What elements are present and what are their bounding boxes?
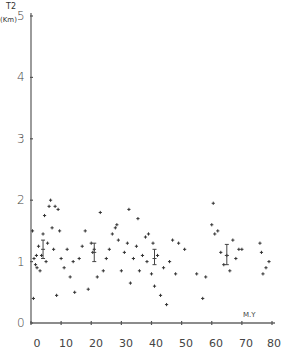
data-point (87, 288, 90, 291)
data-point (156, 254, 159, 257)
data-point (84, 229, 87, 232)
data-point (35, 254, 38, 257)
data-point (52, 248, 55, 251)
data-point (132, 257, 135, 260)
data-point (34, 263, 37, 266)
data-point (177, 242, 180, 245)
data-point (63, 266, 66, 269)
data-point (240, 248, 243, 251)
data-point (114, 226, 117, 229)
data-point (260, 251, 263, 254)
data-point (96, 275, 99, 278)
y-tick-3: 3 (17, 132, 25, 146)
x-tick-0: 0 (34, 337, 41, 350)
x-tick-40: 40 (149, 337, 163, 350)
y-tick-5: 5 (17, 9, 25, 23)
data-point (183, 248, 186, 251)
y-tick-4: 4 (17, 70, 25, 84)
data-point (171, 239, 174, 242)
data-point (44, 260, 47, 263)
data-point (174, 272, 177, 275)
data-point (111, 232, 114, 235)
data-point (60, 257, 63, 260)
scatter-plot (0, 0, 285, 355)
data-point (35, 266, 38, 269)
data-point (47, 205, 50, 208)
data-point (54, 205, 57, 208)
data-point (41, 232, 44, 235)
data-point (267, 260, 270, 263)
data-point (69, 275, 72, 278)
data-point (147, 232, 150, 235)
data-point (49, 199, 52, 202)
data-point (258, 242, 261, 245)
data-point (213, 232, 216, 235)
data-point (66, 248, 69, 251)
data-point (159, 294, 162, 297)
data-point (210, 223, 213, 226)
data-point (261, 272, 264, 275)
x-axis-unit: M.Y (243, 311, 256, 319)
data-point (129, 281, 132, 284)
data-point (212, 202, 215, 205)
data-point (126, 242, 129, 245)
y-axis-title: T2 (6, 2, 16, 11)
data-point (50, 226, 53, 229)
data-point (151, 242, 154, 245)
data-point (115, 223, 118, 226)
data-point (78, 257, 81, 260)
data-point (135, 245, 138, 248)
data-point (123, 251, 126, 254)
data-point (55, 294, 58, 297)
x-tick-10: 10 (59, 337, 73, 350)
y-tick-1: 1 (17, 255, 25, 269)
data-point (58, 229, 61, 232)
y-tick-2: 2 (17, 193, 25, 207)
data-point (99, 211, 102, 214)
data-point (127, 208, 130, 211)
data-point (105, 257, 108, 260)
data-point (117, 239, 120, 242)
data-point (150, 272, 153, 275)
data-point (162, 266, 165, 269)
data-point (153, 285, 156, 288)
data-point (228, 269, 231, 272)
data-point (138, 269, 141, 272)
data-point (144, 235, 147, 238)
data-point (120, 269, 123, 272)
x-tick-50: 50 (179, 337, 193, 350)
data-point (73, 291, 76, 294)
x-tick-60: 60 (209, 337, 223, 350)
data-point (81, 245, 84, 248)
data-point (32, 257, 35, 260)
data-point (102, 269, 105, 272)
data-point (38, 269, 41, 272)
data-point (37, 245, 40, 248)
data-point (204, 275, 207, 278)
data-point (145, 260, 148, 263)
data-point (141, 254, 144, 257)
data-point (46, 242, 49, 245)
y-axis-unit: (Km) (0, 16, 17, 24)
data-point (168, 260, 171, 263)
data-point (195, 272, 198, 275)
data-point (231, 239, 234, 242)
data-point (136, 217, 139, 220)
data-point (237, 248, 240, 251)
x-tick-80: 80 (267, 337, 281, 350)
data-point (165, 303, 168, 306)
x-tick-70: 70 (239, 337, 253, 350)
y-tick-0: 0 (17, 316, 25, 330)
data-point (234, 257, 237, 260)
data-point (43, 214, 46, 217)
data-point (72, 260, 75, 263)
data-point (219, 251, 222, 254)
data-point (57, 208, 60, 211)
data-point (108, 248, 111, 251)
data-point (264, 266, 267, 269)
data-point (201, 297, 204, 300)
data-point (216, 229, 219, 232)
data-point (32, 297, 35, 300)
x-tick-30: 30 (119, 337, 133, 350)
x-tick-20: 20 (89, 337, 103, 350)
